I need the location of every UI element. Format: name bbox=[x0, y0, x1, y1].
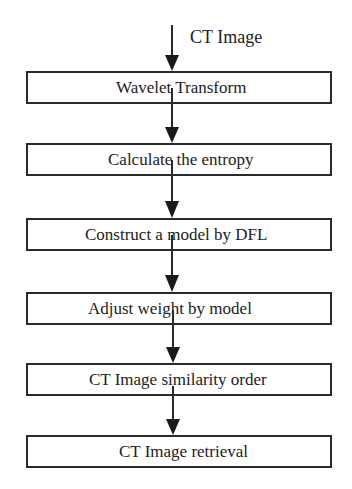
step-label: Calculate the entropy bbox=[108, 145, 253, 174]
step-box-construct-model: Construct a model by DFL bbox=[26, 218, 332, 251]
step-box-adjust-weight: Adjust weight by model bbox=[26, 292, 332, 325]
arrow-down-icon bbox=[165, 25, 179, 71]
step-label: Wavelet Transform bbox=[116, 73, 246, 102]
step-box-similarity-order: CT Image similarity order bbox=[26, 363, 332, 396]
step-label: CT Image similarity order bbox=[89, 365, 267, 394]
step-label: Construct a model by DFL bbox=[85, 220, 267, 249]
step-label: Adjust weight by model bbox=[88, 294, 252, 323]
step-box-calculate-entropy: Calculate the entropy bbox=[26, 143, 332, 176]
step-box-wavelet-transform: Wavelet Transform bbox=[26, 71, 332, 104]
step-box-image-retrieval: CT Image retrieval bbox=[26, 435, 332, 468]
step-label: CT Image retrieval bbox=[119, 437, 248, 466]
input-label: CT Image bbox=[190, 27, 262, 48]
